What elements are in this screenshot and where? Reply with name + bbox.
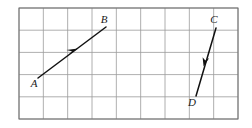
label-b: B [101, 13, 108, 25]
figure-canvas: A B C D [0, 0, 252, 128]
label-a: A [30, 77, 38, 89]
label-c: C [210, 13, 218, 25]
vector-diagram-figure: A B C D [0, 0, 252, 128]
label-d: D [187, 96, 196, 108]
